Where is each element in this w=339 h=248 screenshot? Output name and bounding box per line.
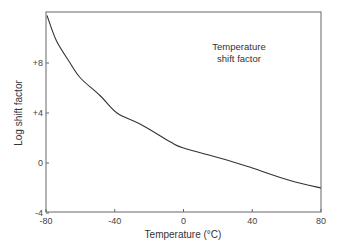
shift-factor-curve <box>47 16 321 189</box>
x-tick-label: 0 <box>181 216 186 226</box>
x-tick-label: 40 <box>247 216 257 226</box>
annotation-line-2: shift factor <box>217 53 261 64</box>
y-tick-label: +4 <box>33 108 43 118</box>
x-tick-label: -40 <box>108 216 121 226</box>
y-axis-ticks: -40+4+8 <box>33 58 49 218</box>
y-axis-label: Log shift factor <box>13 80 24 146</box>
x-tick-label: 80 <box>316 216 326 226</box>
x-axis-label: Temperature (°C) <box>145 229 222 240</box>
y-tick-label: 0 <box>38 158 43 168</box>
y-tick-label: +8 <box>33 58 43 68</box>
chart: -80-4004080 -40+4+8 Temperature shift fa… <box>0 0 339 248</box>
plot-frame <box>46 12 321 212</box>
annotation-line-1: Temperature <box>212 41 265 52</box>
y-tick-label: -4 <box>35 208 43 218</box>
